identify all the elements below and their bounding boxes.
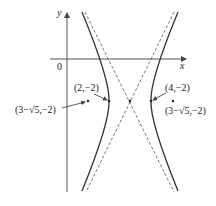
- vertex-right-dot: [150, 100, 153, 103]
- leader-vertex-right: [153, 93, 166, 100]
- vertex-left-dot: [108, 100, 111, 103]
- x-axis-label: x: [180, 61, 184, 71]
- focus-right-label: (3−√5,−2): [165, 106, 206, 116]
- leader-focus-left: [62, 102, 85, 108]
- focus-left-label: (3−√5,−2): [15, 105, 56, 115]
- origin-label: 0: [57, 62, 62, 72]
- center-dot: [129, 100, 132, 103]
- vertex-left-label: (2,−2): [74, 83, 99, 93]
- vertex-right-label: (4,−2): [165, 83, 190, 93]
- y-axis-label: y: [57, 8, 61, 18]
- hyperbola-diagram: [0, 0, 216, 206]
- left-branch: [82, 12, 109, 191]
- leader-vertex-left: [94, 94, 107, 100]
- focus-right-dot: [172, 100, 174, 102]
- focus-left-dot: [87, 100, 89, 102]
